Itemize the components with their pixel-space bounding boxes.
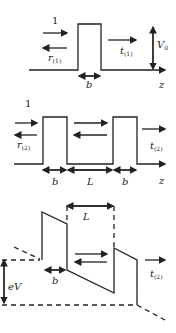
t-sub: (2)	[154, 145, 163, 152]
transmission-label-2: t(2)	[150, 141, 163, 152]
diagram-canvas	[0, 0, 176, 333]
width-label-3: b	[52, 276, 58, 286]
reflection-label-1: r(1)	[48, 53, 61, 64]
double-barrier-panel	[14, 117, 165, 170]
t-sub: (1)	[124, 50, 133, 57]
width-label-1: b	[86, 80, 92, 90]
transmission-label-1: t(1)	[120, 46, 133, 57]
r-sub: (1)	[53, 57, 62, 64]
v-sub: 0	[164, 44, 168, 51]
incident-label-2: 1	[25, 99, 31, 109]
axis-label-1: z	[159, 80, 164, 90]
bias-label: eV	[8, 282, 21, 292]
biased-double-barrier-panel	[2, 206, 165, 320]
reflection-label-2: r(2)	[17, 140, 30, 151]
axis-label-2: z	[159, 176, 164, 186]
width-label-2a: b	[52, 177, 58, 187]
incident-label-1: 1	[52, 16, 58, 26]
separation-label-2: L	[87, 177, 94, 187]
single-barrier-panel	[29, 24, 165, 76]
barrier-height-label: V0	[157, 40, 168, 51]
transmission-label-3: t(2)	[150, 269, 163, 280]
r-sub: (2)	[22, 144, 31, 151]
width-label-2b: b	[122, 177, 128, 187]
t-sub: (2)	[154, 273, 163, 280]
separation-label-3: L	[83, 212, 90, 222]
